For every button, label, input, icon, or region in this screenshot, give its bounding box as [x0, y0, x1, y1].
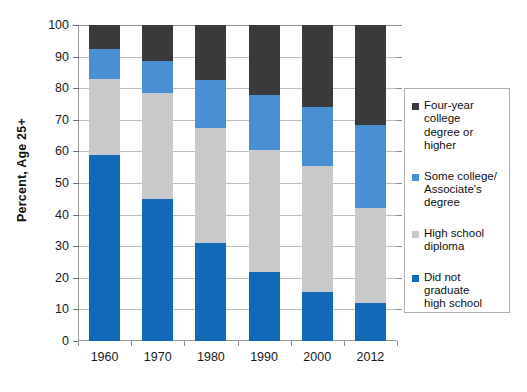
- bar-segment[interactable]: [249, 272, 280, 341]
- plot-area: 0102030405060708090100 19601970198019902…: [78, 25, 397, 341]
- bar-segment[interactable]: [195, 128, 226, 243]
- bar-segment[interactable]: [302, 25, 333, 107]
- legend-swatch: [412, 275, 419, 282]
- legend-label: Four-year college degree or higher: [424, 99, 503, 153]
- y-axis-tick-label: 60: [55, 144, 69, 158]
- y-axis-tick-label: 30: [55, 239, 69, 253]
- bar-segment[interactable]: [142, 61, 173, 93]
- bar-segment[interactable]: [195, 80, 226, 127]
- y-axis-tick-label: 10: [55, 302, 69, 316]
- bar-segment[interactable]: [89, 25, 120, 49]
- y-axis-tick-label: 50: [55, 176, 69, 190]
- bar-column-1970[interactable]: 1970: [142, 25, 173, 341]
- bar-segment[interactable]: [195, 243, 226, 341]
- x-axis-tick: [78, 341, 79, 346]
- x-axis-tick: [238, 341, 239, 346]
- bar-segment[interactable]: [355, 25, 386, 125]
- x-axis-tick-label: 1970: [142, 350, 173, 364]
- bar-column-2012[interactable]: 2012: [355, 25, 386, 341]
- legend-swatch: [412, 174, 419, 181]
- y-axis-title: Percent, Age 25+: [8, 0, 36, 340]
- bar-segment[interactable]: [355, 208, 386, 303]
- bar-column-1990[interactable]: 1990: [249, 25, 280, 341]
- bar-segment[interactable]: [302, 107, 333, 165]
- x-axis-tick-label: 1980: [195, 350, 226, 364]
- bar-segment[interactable]: [195, 25, 226, 80]
- bar-segment[interactable]: [142, 25, 173, 61]
- bar-segment[interactable]: [89, 49, 120, 79]
- bar-segment[interactable]: [89, 155, 120, 341]
- x-axis-tick: [184, 341, 185, 346]
- legend-swatch: [412, 103, 419, 110]
- legend-swatch: [412, 231, 419, 238]
- legend-item[interactable]: Some college/ Associate's degree: [412, 170, 503, 210]
- chart-legend: Four-year college degree or higherSome c…: [404, 88, 510, 313]
- y-axis-tick-label: 80: [55, 81, 69, 95]
- y-axis-tick-label: 100: [48, 18, 69, 32]
- x-axis-tick: [131, 341, 132, 346]
- bar-segment[interactable]: [249, 95, 280, 149]
- x-axis-tick: [291, 341, 292, 346]
- stacked-bar-chart: Percent, Age 25+ 0102030405060708090100 …: [0, 0, 527, 392]
- bar-segment[interactable]: [355, 125, 386, 209]
- y-axis-tick-label: 40: [55, 208, 69, 222]
- bar-segment[interactable]: [142, 199, 173, 341]
- bars-layer: 196019701980199020002012: [78, 25, 397, 341]
- legend-item[interactable]: Four-year college degree or higher: [412, 99, 503, 153]
- bar-column-2000[interactable]: 2000: [302, 25, 333, 341]
- y-axis-tick-label: 0: [62, 334, 69, 348]
- x-axis-tick: [344, 341, 345, 346]
- x-axis-tick-label: 2012: [355, 350, 386, 364]
- legend-item[interactable]: High school diploma: [412, 227, 503, 254]
- x-axis-tick-label: 1960: [89, 350, 120, 364]
- legend-label: Some college/ Associate's degree: [424, 170, 497, 210]
- legend-label: Did not graduate high school: [424, 271, 503, 311]
- x-axis-tick-label: 2000: [302, 350, 333, 364]
- bar-segment[interactable]: [249, 25, 280, 95]
- y-axis-tick-label: 70: [55, 113, 69, 127]
- bar-segment[interactable]: [302, 292, 333, 341]
- bar-segment[interactable]: [302, 166, 333, 292]
- y-axis-title-text: Percent, Age 25+: [15, 118, 29, 222]
- legend-label: High school diploma: [424, 227, 484, 254]
- bar-segment[interactable]: [89, 79, 120, 155]
- legend-item[interactable]: Did not graduate high school: [412, 271, 503, 311]
- y-axis-tick-label: 90: [55, 50, 69, 64]
- x-axis-tick-label: 1990: [249, 350, 280, 364]
- y-axis-tick-label: 20: [55, 271, 69, 285]
- bar-segment[interactable]: [355, 303, 386, 341]
- x-axis-tick: [397, 341, 398, 346]
- legend-list: Four-year college degree or higherSome c…: [412, 99, 503, 311]
- bar-column-1980[interactable]: 1980: [195, 25, 226, 341]
- bar-segment[interactable]: [249, 150, 280, 272]
- bar-column-1960[interactable]: 1960: [89, 25, 120, 341]
- bar-segment[interactable]: [142, 93, 173, 199]
